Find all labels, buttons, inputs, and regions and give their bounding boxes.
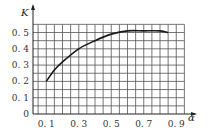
x-tick-label: 0. 5 [103, 119, 120, 129]
y-axis-label: K [20, 7, 29, 18]
y-tick-label: 0. 1 [12, 93, 29, 103]
y-tick-label: 0. 3 [12, 60, 29, 70]
y-tick-label: 0. 4 [12, 44, 29, 54]
chart: 00. 10. 20. 30. 40. 5 0. 10. 30. 50. 70.… [0, 0, 211, 138]
y-tick-label: 0. 5 [12, 28, 29, 38]
x-tick-label: 0. 9 [168, 119, 185, 129]
x-tick-label: 0. 1 [38, 119, 55, 129]
axes [31, 4, 197, 116]
y-axis-arrow-icon [31, 4, 35, 10]
x-tick-labels: 0. 10. 30. 50. 70. 9 [38, 119, 185, 129]
y-tick-label: 0. 2 [12, 76, 29, 86]
x-axis-label: α [188, 112, 195, 123]
y-tick-label: 0 [23, 109, 29, 119]
y-tick-labels: 00. 10. 20. 30. 40. 5 [12, 28, 29, 120]
x-tick-label: 0. 3 [70, 119, 87, 129]
data-curve [46, 31, 168, 82]
x-tick-label: 0. 7 [135, 119, 152, 129]
